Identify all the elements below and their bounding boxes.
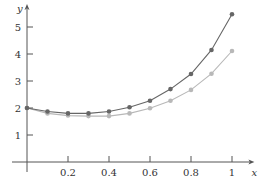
data-point — [127, 111, 132, 116]
data-point — [107, 114, 112, 119]
line-chart: xy0.20.40.60.8112345 — [0, 0, 269, 183]
y-tick-label: 1 — [15, 130, 21, 141]
x-tick-label: 0.8 — [183, 167, 199, 178]
x-tick-label: 1 — [229, 167, 235, 178]
x-tick-label: 0.6 — [142, 167, 158, 178]
data-point — [45, 109, 50, 114]
y-tick-label: 5 — [15, 22, 21, 33]
x-tick-label: 0.4 — [101, 167, 117, 178]
data-point — [209, 71, 214, 76]
series-group — [25, 12, 235, 118]
y-tick-label: 4 — [15, 49, 21, 60]
x-axis-label: x — [251, 167, 257, 178]
y-axis-label: y — [16, 3, 23, 14]
data-point — [230, 12, 235, 17]
y-tick-label: 3 — [15, 76, 21, 87]
axes: xy0.20.40.60.8112345 — [12, 3, 257, 178]
series-dark — [25, 12, 235, 116]
data-point — [230, 49, 235, 54]
data-point — [148, 106, 153, 111]
data-point — [148, 98, 153, 103]
data-point — [107, 109, 112, 114]
data-point — [189, 72, 194, 77]
data-point — [86, 111, 91, 116]
data-point — [66, 111, 71, 116]
data-point — [25, 106, 30, 111]
data-point — [189, 88, 194, 93]
data-point — [168, 87, 173, 92]
data-point — [168, 98, 173, 103]
series-line — [27, 14, 232, 113]
y-tick-label: 2 — [15, 103, 21, 114]
data-point — [127, 105, 132, 110]
x-tick-label: 0.2 — [60, 167, 76, 178]
data-point — [209, 48, 214, 53]
